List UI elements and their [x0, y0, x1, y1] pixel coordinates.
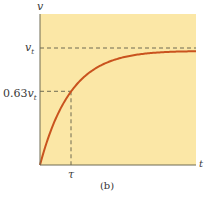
vt63-sub: t	[34, 94, 37, 102]
figure-caption: (b)	[0, 180, 214, 191]
tau-tick-label: τ	[68, 169, 74, 180]
vt-tick-label: vt	[25, 42, 34, 56]
vt63-tick-label: 0.63vt	[3, 88, 37, 102]
vt63-prefix: 0.63	[3, 87, 28, 100]
x-axis-label: t	[199, 159, 203, 169]
plot-background	[40, 14, 196, 165]
terminal-velocity-chart	[0, 0, 214, 208]
vt-sub: t	[31, 48, 34, 56]
y-axis-label: v	[37, 1, 43, 12]
